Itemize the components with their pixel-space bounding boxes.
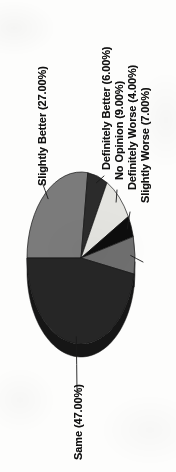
slice-label-slightly-worse: Slightly Worse (7.00%) <box>139 87 151 203</box>
pie-slices: Slightly Better (27.00%)Definitely Bette… <box>27 172 135 344</box>
slice-label-slightly-better: Slightly Better (27.00%) <box>36 66 48 186</box>
slice-label-definitely-better: Definitely Better (6.00%) <box>100 47 112 170</box>
pie-chart: Slightly Better (27.00%)Definitely Bette… <box>0 0 176 472</box>
chart-page: Slightly Better (27.00%)Definitely Bette… <box>0 0 176 472</box>
slice-label-same: Same (47.00%) <box>72 384 84 460</box>
slice-label-no-opinion: No Opinion (9.00%) <box>113 81 125 180</box>
pie-chart-svg: Slightly Better (27.00%)Definitely Bette… <box>0 0 176 472</box>
slice-label-definitely-worse: Definitely Worse (4.00%) <box>126 65 138 190</box>
